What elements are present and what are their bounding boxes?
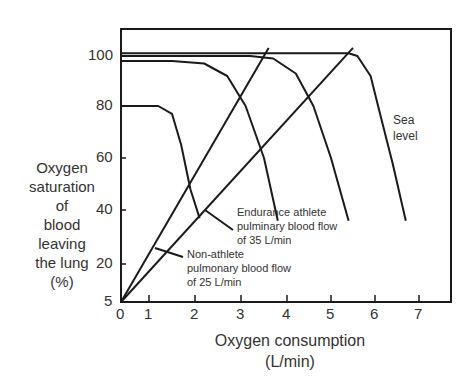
annotation-line: pulminary blood flow — [237, 219, 337, 233]
x-label-line: (L/min) — [210, 351, 370, 372]
y-label-line: saturation — [18, 177, 106, 196]
annotation-line: level — [393, 128, 418, 144]
endurance-pointer — [205, 210, 233, 230]
annotation-line: pulmonary blood flow — [187, 261, 291, 275]
endurance-annotation: Endurance athlete pulminary blood flow o… — [237, 205, 337, 247]
saturation-curve — [121, 106, 200, 218]
annotation-line: Sea — [393, 112, 418, 128]
sea-level-annotation: Sea level — [393, 112, 418, 144]
x-tick-label: 2 — [190, 305, 198, 322]
saturation-curve — [121, 61, 278, 221]
annotation-line: Endurance athlete — [237, 205, 337, 219]
x-axis-label: Oxygen consumption (L/min) — [210, 330, 370, 372]
x-tick-label: 4 — [282, 305, 290, 322]
y-label-line: of — [18, 196, 106, 215]
y-tick-label: 100 — [88, 46, 113, 63]
y-label-line: Oxygen — [18, 158, 106, 177]
y-tick-label: 5 — [104, 292, 112, 309]
x-tick-label: 6 — [370, 305, 378, 322]
x-tick-label: 0 — [116, 305, 124, 322]
x-tick-label: 5 — [326, 305, 334, 322]
y-label-line: leaving — [18, 234, 106, 253]
x-tick-label: 3 — [236, 305, 244, 322]
x-label-line: Oxygen consumption — [210, 330, 370, 351]
y-label-line: (%) — [18, 272, 106, 291]
x-axis-ticks — [149, 295, 419, 302]
non-athlete-annotation: Non-athlete pulmonary blood flow of 25 L… — [187, 247, 291, 289]
annotation-line: Non-athlete — [187, 247, 291, 261]
y-axis-label: Oxygen saturation of blood leaving the l… — [18, 158, 106, 291]
annotation-line: of 25 L/min — [187, 275, 291, 289]
annotation-line: of 35 L/min — [237, 233, 337, 247]
y-label-line: the lung — [18, 253, 106, 272]
x-tick-label: 7 — [414, 305, 422, 322]
y-tick-label: 80 — [96, 96, 113, 113]
x-tick-label: 1 — [144, 305, 152, 322]
saturation-curve — [121, 53, 406, 221]
saturation-curve — [121, 56, 349, 221]
y-label-line: blood — [18, 215, 106, 234]
